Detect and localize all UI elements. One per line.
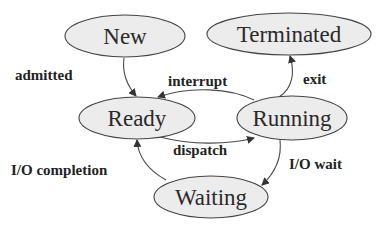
- label-exit: exit: [303, 71, 326, 87]
- edge-admitted: [124, 58, 137, 96]
- node-new-label: New: [103, 24, 147, 49]
- label-interrupt: interrupt: [168, 73, 227, 89]
- node-new: New: [65, 15, 185, 57]
- edge-io-wait: [262, 140, 280, 185]
- edge-exit: [279, 56, 292, 97]
- label-admitted: admitted: [15, 67, 73, 83]
- label-dispatch: dispatch: [173, 142, 228, 158]
- node-running-label: Running: [252, 106, 332, 131]
- node-ready-label: Ready: [108, 106, 167, 131]
- edge-interrupt: [158, 90, 254, 100]
- edge-io-completion: [137, 140, 166, 180]
- state-diagram: admitted interrupt exit dispatch I/O com…: [0, 0, 378, 232]
- label-io-completion: I/O completion: [11, 162, 108, 178]
- node-waiting-label: Waiting: [175, 185, 248, 210]
- node-running: Running: [237, 96, 347, 140]
- node-terminated: Terminated: [207, 13, 371, 55]
- node-terminated-label: Terminated: [237, 22, 342, 47]
- node-waiting: Waiting: [154, 176, 268, 218]
- label-io-wait: I/O wait: [289, 156, 342, 172]
- node-ready: Ready: [79, 97, 195, 139]
